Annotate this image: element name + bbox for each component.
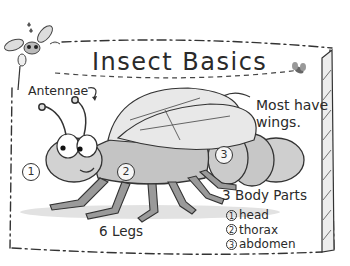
cartoon-bug-mascot-icon: [3, 22, 60, 90]
number-3-marker: 3: [226, 239, 237, 250]
card-edge-hatch: [322, 50, 334, 252]
legs-label: 6 Legs: [99, 223, 143, 239]
body-part-item-abdomen: 3 abdomen: [226, 237, 296, 252]
page-title: Insect Basics: [92, 48, 267, 76]
body-parts-title: 3 Body Parts: [222, 187, 307, 203]
head-number-marker: 1: [22, 163, 40, 181]
wings-label-line2: wings.: [256, 114, 328, 131]
wings: [108, 88, 256, 150]
body-part-name: abdomen: [239, 237, 296, 252]
number-2-marker: 2: [226, 224, 237, 235]
illustration: [0, 0, 350, 266]
head: [46, 134, 102, 182]
abdomen-number-marker: 3: [215, 146, 233, 164]
insect-basics-diagram: Insect Basics Antennae Most have wings. …: [0, 0, 350, 266]
body-part-item-head: 1 head: [226, 208, 296, 223]
body-part-item-thorax: 2 thorax: [226, 223, 296, 238]
number-1-marker: 1: [226, 210, 237, 221]
body-parts-list: 1 head 2 thorax 3 abdomen: [226, 208, 296, 252]
small-fly-icon: [292, 62, 306, 75]
body-part-name: head: [239, 208, 269, 223]
antennae-label: Antennae: [28, 83, 88, 98]
thorax-number-marker: 2: [117, 163, 135, 181]
wings-label-line1: Most have: [256, 97, 328, 114]
antennae: [39, 97, 86, 135]
body-part-name: thorax: [239, 223, 278, 238]
wings-label: Most have wings.: [256, 97, 328, 131]
